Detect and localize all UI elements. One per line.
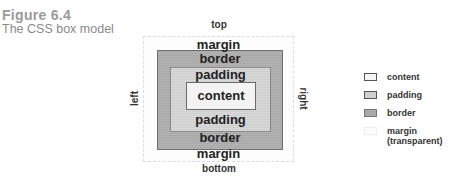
left-label: left: [129, 89, 140, 109]
legend-label-padding: padding: [387, 90, 422, 100]
legend-swatch-content: [364, 73, 377, 81]
legend-swatch-margin: [364, 127, 377, 135]
figure-number: Figure 6.4: [2, 7, 71, 23]
padding-top-label: padding: [170, 67, 271, 82]
figure-caption: The CSS box model: [2, 22, 114, 36]
margin-top-label: margin: [143, 37, 294, 52]
legend-label-content: content: [387, 72, 420, 82]
bottom-label: bottom: [199, 163, 239, 174]
legend-swatch-border: [364, 109, 377, 117]
border-top-label: border: [157, 51, 283, 66]
top-label: top: [207, 19, 231, 30]
right-label: right: [298, 87, 309, 111]
margin-bottom-label: margin: [143, 146, 294, 161]
legend-label-margin: margin (transparent): [387, 126, 467, 146]
legend-label-border: border: [387, 108, 416, 118]
content-label: content: [186, 88, 256, 103]
legend-swatch-padding: [364, 91, 377, 99]
padding-bottom-label: padding: [170, 112, 271, 127]
border-bottom-label: border: [157, 130, 283, 145]
